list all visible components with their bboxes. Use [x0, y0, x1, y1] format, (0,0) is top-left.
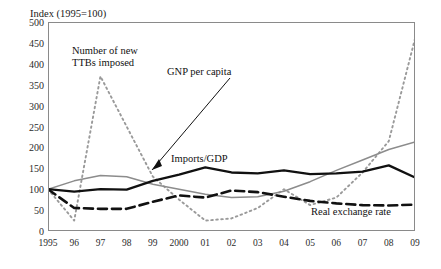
x-tick-04: 04 — [279, 238, 289, 248]
x-axis-tick-labels: 1995969798992000010203040506070809 — [0, 238, 441, 258]
y-tick-400: 400 — [14, 58, 44, 69]
y-tick-250: 250 — [14, 121, 44, 132]
annotation-rer-line1: Real exchange rate — [311, 206, 391, 218]
x-tick-2000: 2000 — [170, 238, 189, 248]
x-tick-98: 98 — [122, 238, 132, 248]
y-tick-100: 100 — [14, 184, 44, 195]
y-tick-350: 350 — [14, 79, 44, 90]
annotation-imports-gdp: Imports/GDP — [171, 153, 228, 165]
x-tick-97: 97 — [96, 238, 106, 248]
x-tick-96: 96 — [69, 238, 79, 248]
x-tick-05: 05 — [305, 238, 315, 248]
y-tick-150: 150 — [14, 163, 44, 174]
annotation-gnp-line1: GNP per capita — [167, 66, 231, 78]
x-tick-01: 01 — [201, 238, 211, 248]
y-tick-500: 500 — [14, 17, 44, 28]
x-tick-99: 99 — [148, 238, 158, 248]
y-tick-300: 300 — [14, 100, 44, 111]
annotation-ttbs-line1: Number of new — [72, 45, 138, 57]
y-tick-450: 450 — [14, 37, 44, 48]
series-line-imports-gdp — [48, 165, 415, 191]
y-tick-200: 200 — [14, 142, 44, 153]
annotation-imports-line1: Imports/GDP — [171, 153, 228, 165]
x-tick-07: 07 — [358, 238, 368, 248]
annotation-ttbs: Number of new TTBs imposed — [72, 45, 138, 69]
y-tick-0: 0 — [14, 226, 44, 237]
chart-container: Index (1995=100) 05010015020025030035040… — [0, 0, 441, 269]
x-tick-02: 02 — [227, 238, 237, 248]
x-tick-08: 08 — [384, 238, 394, 248]
annotation-real-exchange-rate: Real exchange rate — [311, 206, 391, 218]
x-tick-1995: 1995 — [39, 238, 58, 248]
annotation-gnp-per-capita: GNP per capita — [167, 66, 231, 78]
x-tick-03: 03 — [253, 238, 263, 248]
y-tick-50: 50 — [14, 205, 44, 216]
x-tick-06: 06 — [332, 238, 342, 248]
x-tick-09: 09 — [410, 238, 420, 248]
annotation-ttbs-line2: TTBs imposed — [72, 57, 138, 69]
y-axis-tick-labels: 050100150200250300350400450500 — [8, 0, 44, 269]
